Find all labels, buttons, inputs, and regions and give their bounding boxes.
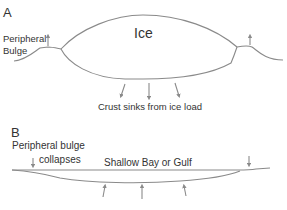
bay-bottom-line [12,170,240,183]
crust-sinks-label: Crust sinks from ice load [98,102,202,112]
peripheral-bulge-label-line2: Bulge [3,46,27,56]
water-surface-line [12,168,270,170]
rebound-up-arrow-1 [103,186,105,197]
crust-down-arrow-1 [121,84,125,96]
shallow-bay-label: Shallow Bay or Gulf [104,158,192,168]
rebound-up-arrow-3 [184,186,186,196]
right-ground-line [237,46,283,60]
ice-label: Ice [134,26,153,40]
panel-b-label: B [11,126,20,139]
bulge-collapses-label-line1: Peripheral bulge [12,141,85,151]
bulge-collapses-label-line2: collapses [39,155,81,165]
crust-down-arrow-3 [175,83,179,96]
panel-a-label: A [3,6,12,19]
ice-bottom-outline [61,47,237,79]
peripheral-bulge-label-line1: Peripheral [3,34,46,44]
